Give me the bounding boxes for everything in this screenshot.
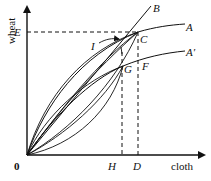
curve-A — [27, 24, 185, 155]
point-H-label: H — [107, 160, 117, 172]
point-A-prime-label: A′ — [185, 46, 196, 58]
trade-diagram: wheat cloth 0 E C A B I G F A′ H D — [0, 0, 211, 181]
x-axis-label: cloth — [171, 160, 193, 172]
curve-lens-5 — [27, 66, 123, 155]
point-I-label: I — [90, 40, 96, 52]
point-F-label: F — [141, 60, 149, 72]
point-D-label: D — [132, 160, 141, 172]
curve-lens-6 — [27, 66, 123, 155]
point-A-label: A — [185, 21, 193, 33]
point-C-label: C — [140, 33, 148, 45]
tick-mark — [121, 47, 122, 54]
curve-lens-7 — [27, 66, 123, 155]
origin-label: 0 — [14, 160, 20, 172]
point-B-label: B — [153, 2, 160, 14]
point-E-label: E — [13, 26, 21, 38]
point-G-label: G — [124, 63, 132, 75]
line-0-B — [27, 6, 151, 155]
